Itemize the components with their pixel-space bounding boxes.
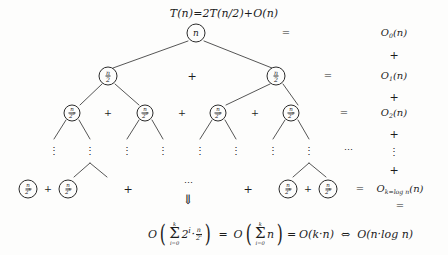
vertical-dots-7: ⋮	[268, 146, 278, 156]
sum-lower-2: i=0	[256, 241, 265, 246]
recursion-tree-figure: T(n)=2T(n/2)+O(n) n = O0(n) + n 2 + n 2 …	[0, 0, 448, 255]
vertical-dots-6: ⋮	[231, 146, 241, 156]
right-col-vertical-dots: ⋮	[389, 147, 399, 157]
equals-levelk: =	[356, 184, 364, 194]
tree-node-levelk-c: n 2k	[279, 180, 298, 199]
cost-term-level1: O1(n)	[381, 71, 407, 81]
big-o-1: O	[148, 228, 157, 241]
cost-term-levelk: Ok=log n(n)	[376, 184, 423, 194]
big-o-2: O	[234, 228, 243, 241]
cost-term-level0: O0(n)	[381, 28, 407, 38]
node-label: n 22	[215, 107, 221, 120]
tree-edges	[0, 0, 448, 255]
tree-node-levelk-d: n 2k	[319, 180, 338, 199]
right-col-plus-3: +	[389, 165, 398, 176]
node-label: n 2k	[65, 183, 71, 196]
equals-formula-2: =	[287, 228, 296, 241]
node-label: n 22	[142, 107, 148, 120]
equals-level1: =	[324, 71, 332, 81]
summation-1: k Σ i=0	[169, 222, 180, 246]
right-paren-2: )	[277, 224, 283, 244]
plus-levelk-mid-right: +	[243, 184, 252, 195]
equals-formula-1: =	[218, 228, 227, 241]
plus-levelk-b: +	[304, 184, 312, 194]
tree-node-levelk-b: n 2k	[59, 180, 78, 199]
result-n-log-n: O(n·log n)	[357, 228, 413, 241]
left-paren-1: (	[160, 224, 166, 244]
middle-dot-1: ·	[192, 228, 196, 241]
node-label: n 2	[106, 69, 111, 83]
plus-level2-b: +	[178, 108, 186, 118]
node-label: n 2k	[25, 183, 31, 196]
tree-node-level1-b: n 2	[267, 67, 286, 86]
cost-term-level2: O2(n)	[381, 108, 407, 118]
vertical-dots-1: ⋮	[49, 146, 59, 156]
tree-node-level1-a: n 2	[99, 67, 118, 86]
tree-node-level2-d: n 22	[283, 105, 300, 122]
tree-node-level2-a: n 22	[64, 105, 81, 122]
iff-symbol: ⇔	[341, 228, 350, 241]
plus-levelk-mid-left: +	[123, 184, 132, 195]
equals-level0: =	[282, 28, 290, 38]
node-label: n 22	[288, 107, 294, 120]
tree-node-level2-b: n 22	[137, 105, 154, 122]
vertical-dots-8: ⋮	[304, 146, 314, 156]
plus-level1: +	[187, 71, 196, 82]
double-down-arrow: ⇓	[183, 193, 194, 206]
node-label: n 22	[69, 107, 75, 120]
node-label: n 2k	[285, 183, 291, 196]
right-col-equals-final: =	[396, 201, 404, 211]
sum-lower-1: i=0	[170, 241, 179, 246]
sigma-glyph-1: Σ	[169, 227, 180, 241]
plus-level2-a: +	[104, 108, 112, 118]
summation-2: k Σ i=0	[255, 222, 266, 246]
horizontal-dots-levelk: ⋯	[184, 179, 193, 188]
right-col-plus-1: +	[389, 92, 398, 103]
vertical-dots-5: ⋮	[195, 146, 205, 156]
term-2-to-i: 2i	[181, 228, 190, 241]
node-label: n	[193, 29, 199, 38]
node-label: n 2k	[325, 183, 331, 196]
tree-node-levelk-a: n 2k	[19, 180, 38, 199]
sigma-glyph-2: Σ	[255, 227, 266, 241]
tree-node-level0: n	[187, 24, 206, 43]
node-label: n 2	[274, 69, 279, 83]
plus-level2-c: +	[251, 108, 259, 118]
vertical-dots-2: ⋮	[85, 146, 95, 156]
right-col-plus-2: +	[389, 129, 398, 140]
plus-levelk-a: +	[44, 184, 52, 194]
vertical-dots-4: ⋮	[158, 146, 168, 156]
vertical-dots-3: ⋮	[122, 146, 132, 156]
figure-title: T(n)=2T(n/2)+O(n)	[170, 8, 279, 19]
equals-level2: =	[340, 108, 348, 118]
tree-node-level2-c: n 22	[210, 105, 227, 122]
term-n: n	[267, 228, 274, 241]
bottom-summation-formula: O ( k Σ i=0 2i · n 2i ) = O ( k Σ i=0 n …	[148, 222, 413, 246]
term-n-over-2i: n 2i	[196, 227, 202, 241]
right-paren-1: )	[204, 224, 210, 244]
result-k-times-n: O(k·n)	[299, 228, 334, 241]
left-paren-2: (	[245, 224, 251, 244]
right-col-plus-0: +	[389, 50, 398, 61]
horizontal-dots-row: ⋯	[344, 146, 353, 155]
